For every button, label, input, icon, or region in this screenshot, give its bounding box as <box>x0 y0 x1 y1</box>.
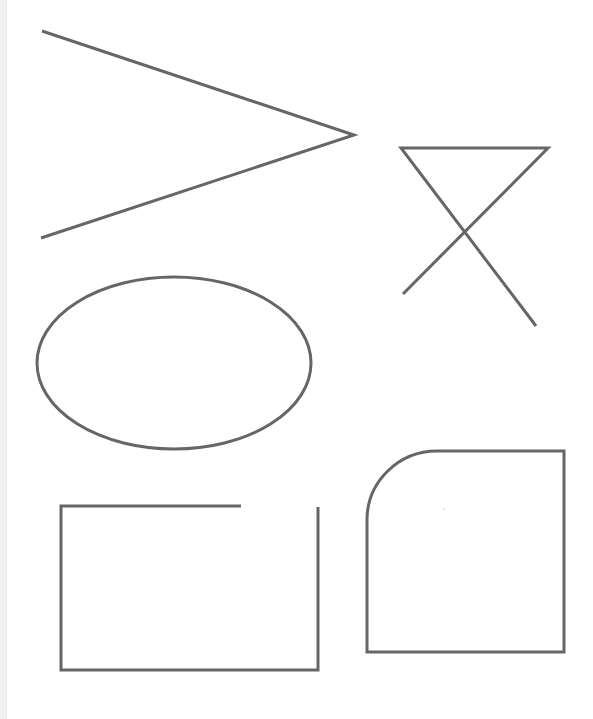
rounded-corner-square-shape <box>367 451 564 652</box>
open-rectangle-shape <box>61 506 318 670</box>
stray-dot <box>443 508 445 510</box>
crossed-triangle-shape <box>401 148 548 326</box>
ellipse-shape <box>37 277 311 449</box>
drawing-canvas <box>0 0 593 719</box>
angle-shape <box>41 31 354 238</box>
